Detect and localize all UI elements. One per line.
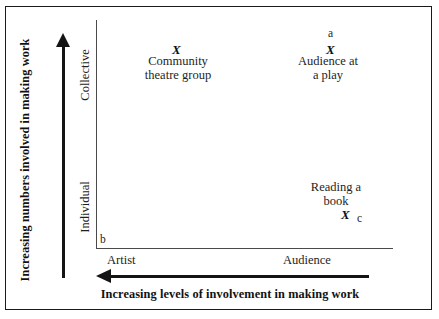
y-axis-tier-individual: Individual [78, 171, 94, 243]
data-point-label-reading-a-book: Reading a book [297, 180, 375, 208]
x-axis-category-audience: Audience [283, 253, 331, 268]
data-point-key-letter-c: c [357, 213, 362, 225]
figure-outer-border [5, 6, 432, 310]
x-axis-line [96, 248, 393, 249]
y-axis-caption-text: Increasing numbers involved in making wo… [18, 35, 33, 285]
data-point-label-audience-at-a-play: Audience at a play [286, 54, 370, 82]
data-point-key-letter-a: a [328, 28, 333, 40]
y-axis-arrow-shaft [62, 46, 65, 278]
figure-canvas: Increasing numbers involved in making wo… [0, 0, 439, 319]
x-axis-category-artist: Artist [107, 253, 135, 268]
y-axis-line [96, 20, 97, 249]
y-axis-caption: Increasing numbers involved in making wo… [15, 0, 33, 35]
y-axis-tier-collective: Collective [78, 41, 94, 109]
data-point-marker-reading-a-book: X [341, 208, 350, 221]
x-axis-arrow-head-icon [96, 269, 111, 283]
origin-key-letter-b: b [100, 234, 106, 246]
x-axis-arrow-shaft [110, 275, 369, 278]
y-axis-arrow-head-icon [56, 33, 70, 47]
data-point-label-community-theatre-group: Community theatre group [130, 54, 226, 82]
x-axis-caption: Increasing levels of involvement in maki… [60, 287, 400, 302]
